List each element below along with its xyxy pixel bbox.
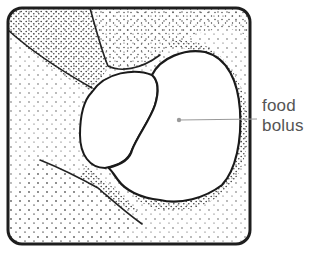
label-bolus: bolus bbox=[262, 116, 304, 135]
label-food: food bbox=[262, 96, 296, 115]
leader-dot bbox=[177, 118, 181, 122]
